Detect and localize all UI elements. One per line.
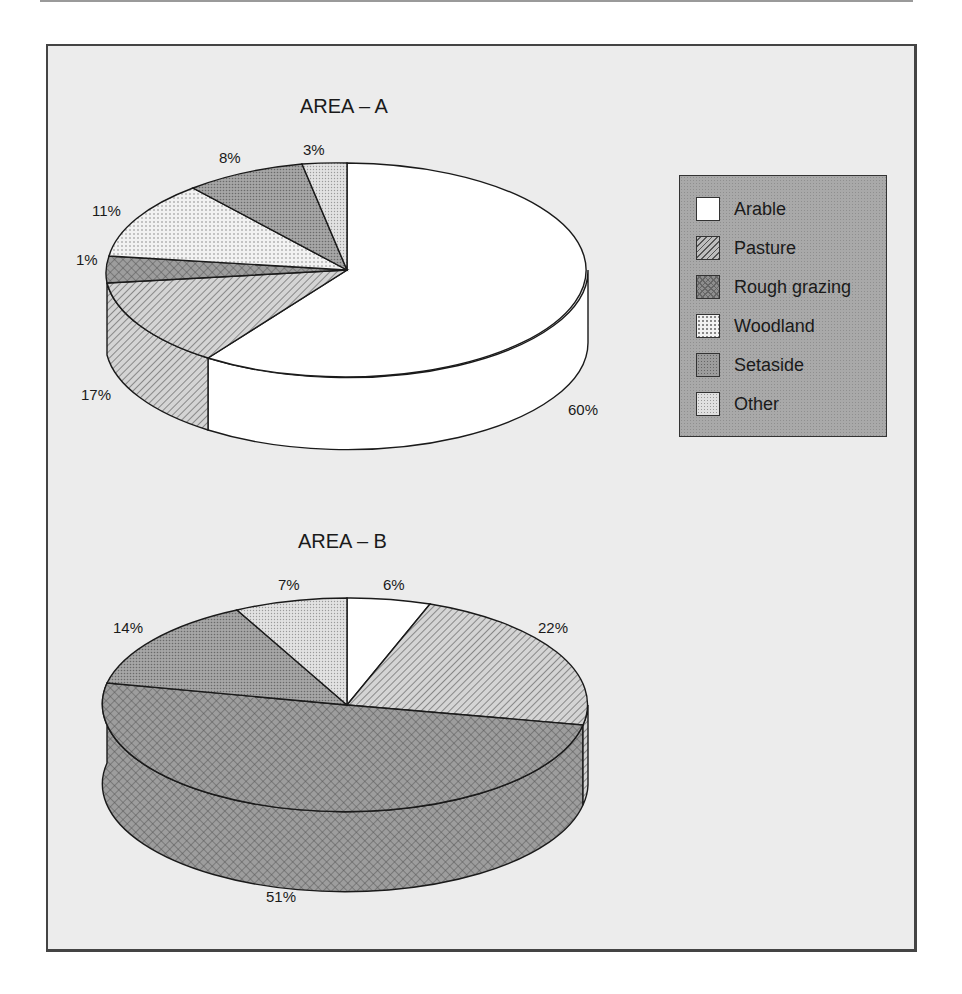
legend-item-rough-grazing: Rough grazing bbox=[696, 274, 851, 300]
label-b-pasture: 22% bbox=[538, 619, 568, 636]
legend-item-woodland: Woodland bbox=[696, 313, 815, 339]
legend-label: Other bbox=[734, 394, 779, 415]
legend-item-arable: Arable bbox=[696, 196, 786, 222]
legend-item-setaside: Setaside bbox=[696, 352, 804, 378]
label-a-arable: 60% bbox=[568, 401, 598, 418]
label-b-other: 7% bbox=[278, 576, 300, 593]
swatch-other-icon bbox=[696, 392, 720, 416]
legend-label: Arable bbox=[734, 199, 786, 220]
legend-item-pasture: Pasture bbox=[696, 235, 796, 261]
pie-area-a bbox=[106, 163, 588, 450]
legend-item-other: Other bbox=[696, 391, 779, 417]
chart-title-area-a: AREA – A bbox=[300, 95, 388, 118]
label-a-rough: 1% bbox=[76, 251, 98, 268]
swatch-pasture-icon bbox=[696, 236, 720, 260]
swatch-woodland-icon bbox=[696, 314, 720, 338]
legend: Arable Pasture Rough grazing Woodland Se… bbox=[679, 175, 887, 437]
swatch-arable-icon bbox=[696, 197, 720, 221]
swatch-rough-grazing-icon bbox=[696, 275, 720, 299]
pie-area-b bbox=[102, 598, 588, 892]
legend-label: Rough grazing bbox=[734, 277, 851, 298]
label-b-arable: 6% bbox=[383, 576, 405, 593]
label-a-setaside: 8% bbox=[219, 149, 241, 166]
label-b-setaside: 14% bbox=[113, 619, 143, 636]
pie-charts-canvas bbox=[0, 0, 962, 994]
legend-label: Pasture bbox=[734, 238, 796, 259]
chart-title-area-b: AREA – B bbox=[298, 530, 387, 553]
swatch-setaside-icon bbox=[696, 353, 720, 377]
label-a-pasture: 17% bbox=[81, 386, 111, 403]
label-a-other: 3% bbox=[303, 141, 325, 158]
label-b-rough: 51% bbox=[266, 888, 296, 905]
label-a-woodland: 11% bbox=[92, 202, 121, 219]
legend-label: Setaside bbox=[734, 355, 804, 376]
legend-label: Woodland bbox=[734, 316, 815, 337]
